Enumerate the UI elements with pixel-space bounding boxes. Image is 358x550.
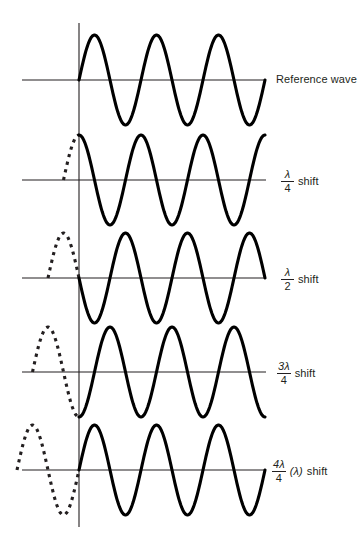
- wave-label-three-quarter: 3λ 4 shift: [277, 361, 315, 386]
- wave-row-full: [17, 425, 266, 515]
- fraction-denominator: 4: [280, 374, 288, 386]
- shift-word-full: shift: [307, 466, 328, 477]
- fraction-lambda-over-two: λ 2: [281, 267, 294, 292]
- wave-label-quarter: λ 4 shift: [281, 169, 319, 194]
- fraction-numerator: 3λ: [277, 361, 291, 373]
- reference-wave-text: Reference wave: [276, 73, 357, 85]
- fraction-three-lambda-over-four: 3λ 4: [277, 361, 291, 386]
- wave-label-reference: Reference wave: [276, 74, 357, 85]
- fraction-lambda-over-four: λ 4: [281, 169, 294, 194]
- wave-row-reference: [22, 35, 266, 125]
- wave-row-three-quarter: [22, 327, 266, 417]
- wave-rows-group: [17, 35, 266, 515]
- fraction-numerator: 4λ: [272, 459, 286, 471]
- shift-word-half: shift: [298, 274, 319, 285]
- paren-lambda-text: (λ): [290, 466, 303, 477]
- wave-row-quarter: [22, 135, 266, 225]
- fraction-four-lambda-over-four: 4λ 4: [272, 459, 286, 484]
- wave-row-half: [22, 233, 266, 323]
- shift-word-three-quarter: shift: [295, 368, 316, 379]
- fraction-numerator: λ: [284, 169, 292, 181]
- fraction-numerator: λ: [284, 267, 292, 279]
- fraction-denominator: 4: [275, 472, 283, 484]
- fraction-denominator: 2: [283, 280, 291, 292]
- wave-dashed-lead-half: [48, 233, 79, 278]
- wave-dashed-lead-quarter: [64, 135, 80, 180]
- fraction-denominator: 4: [283, 182, 291, 194]
- wave-label-full: 4λ 4 (λ) shift: [272, 459, 327, 484]
- shift-word-quarter: shift: [298, 176, 319, 187]
- wave-label-half: λ 2 shift: [281, 267, 319, 292]
